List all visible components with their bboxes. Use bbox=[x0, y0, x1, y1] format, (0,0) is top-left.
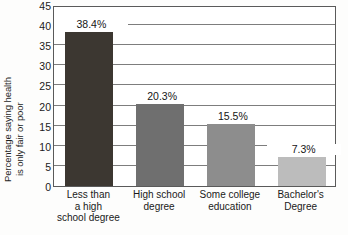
y-axis-tick-label: 35 bbox=[33, 41, 51, 51]
y-axis-tick-label: 20 bbox=[33, 102, 51, 112]
x-axis-category-label-line: Bachelor's bbox=[258, 189, 343, 201]
figure-caption bbox=[8, 228, 338, 235]
y-axis-tick-labels: 051015202530354045 bbox=[33, 0, 51, 192]
plot-area: 38.4%20.3%15.5%7.3% bbox=[53, 6, 336, 187]
bar-value-label: 20.3% bbox=[125, 91, 199, 102]
y-axis-tick-label: 45 bbox=[33, 1, 51, 11]
x-axis-category-label-line: Degree bbox=[258, 201, 343, 213]
bar bbox=[136, 104, 184, 186]
bar bbox=[278, 157, 326, 186]
y-axis-tick-label: 5 bbox=[33, 162, 51, 172]
y-axis-title: Percentage saying health is only fair or… bbox=[0, 0, 34, 190]
bar bbox=[207, 124, 255, 186]
y-axis-tick-label: 40 bbox=[33, 21, 51, 31]
x-axis-category-label-line: school degree bbox=[46, 212, 131, 224]
x-axis-category-labels: Less thana highschool degreeHigh schoold… bbox=[53, 189, 336, 229]
x-axis-category-label: Bachelor'sDegree bbox=[258, 189, 343, 212]
bar-value-label: 38.4% bbox=[54, 19, 128, 30]
bar bbox=[65, 32, 113, 186]
y-axis-tick-label: 10 bbox=[33, 142, 51, 152]
y-axis-title-line-2: is only fair or poor bbox=[14, 102, 25, 176]
y-axis-title-line-1: Percentage saying health bbox=[2, 77, 13, 182]
figure-container: Percentage saying health is only fair or… bbox=[0, 0, 348, 235]
y-axis-tick-label: 25 bbox=[33, 81, 51, 91]
y-axis-tick-label: 15 bbox=[33, 122, 51, 132]
bar-value-label: 7.3% bbox=[267, 144, 341, 155]
bar-value-label: 15.5% bbox=[196, 111, 270, 122]
y-axis-tick-label: 30 bbox=[33, 61, 51, 71]
